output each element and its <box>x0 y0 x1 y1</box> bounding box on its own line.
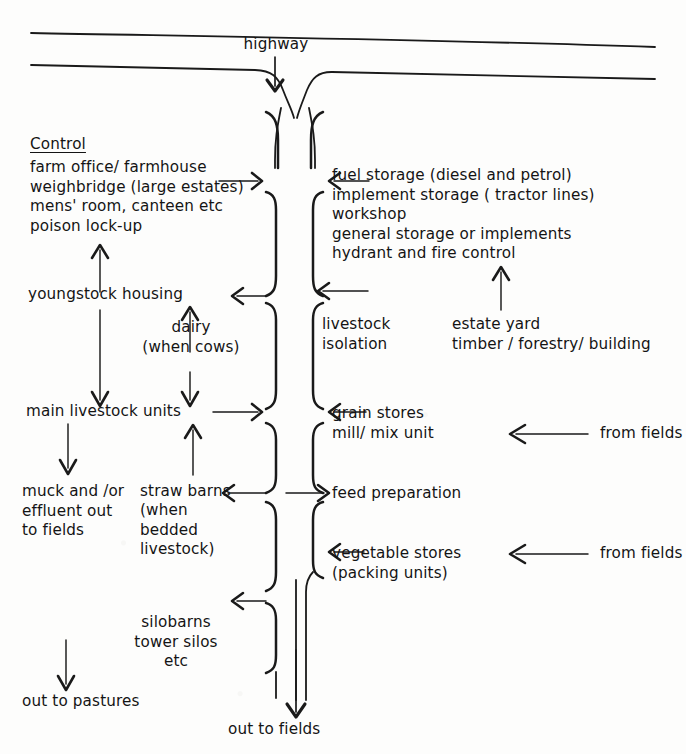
straw-barns-label: straw barns <box>140 482 231 502</box>
highway-entry-arrow <box>267 57 283 91</box>
link-storage-to-youngstock <box>318 283 368 299</box>
spine-right-lower-road <box>296 572 313 700</box>
from-fields-lower-label: from fields <box>600 544 683 564</box>
arrow-spine-to-feed-preparation <box>286 485 329 501</box>
diagram-linework: .ln { fill:none; stroke:#1a1a1a; stroke-… <box>0 0 686 754</box>
arrow-youngstock-to-main-livestock <box>92 310 108 406</box>
feed-preparation-label: feed preparation <box>332 484 461 504</box>
silos-label: silobarns tower silos etc <box>116 613 236 672</box>
arrow-out-to-pastures <box>58 640 74 690</box>
storage-items-list: fuel storage (diesel and petrol) impleme… <box>332 166 595 264</box>
highway-road-lines <box>31 33 655 118</box>
highway-label: highway <box>216 35 336 55</box>
control-items-list: farm office/ farmhouse weighbridge (larg… <box>30 158 244 236</box>
muck-effluent-label: muck and /or effluent out to fields <box>22 482 124 541</box>
spine-right-road <box>309 108 323 168</box>
vegetable-stores-label: vegetable stores (packing units) <box>332 544 461 583</box>
arrow-spine-to-youngstock <box>232 288 266 304</box>
arrow-dairy-down <box>182 372 198 406</box>
arrow-silos-to-spine <box>232 593 266 609</box>
estate-yard-label: estate yard timber / forestry/ building <box>452 315 651 354</box>
diagram-canvas: .ln { fill:none; stroke:#1a1a1a; stroke-… <box>0 0 686 754</box>
arrow-main-livestock-to-spine <box>213 404 262 420</box>
out-to-pastures-label: out to pastures <box>22 692 140 712</box>
straw-barns-note: (when bedded livestock) <box>140 501 215 560</box>
arrow-from-fields-upper <box>510 425 588 443</box>
arrow-from-fields-lower <box>510 545 588 563</box>
livestock-isolation-label: livestock isolation <box>322 315 390 354</box>
control-heading: Control <box>30 135 86 155</box>
arrow-main-livestock-to-muck <box>60 424 76 474</box>
from-fields-upper-label: from fields <box>600 424 683 444</box>
dairy-label: dairy (when cows) <box>130 318 252 357</box>
arrow-estate-yard-up <box>493 267 509 310</box>
grain-stores-label: grain stores mill/ mix unit <box>332 404 434 443</box>
out-to-fields-label: out to fields <box>228 720 320 740</box>
arrow-straw-barns-up <box>185 425 201 475</box>
spine-left-road <box>266 108 281 168</box>
spine-right-bracket-segments <box>313 192 323 578</box>
spine-left-bracket-segments <box>266 192 276 673</box>
out-to-fields-arrow <box>287 650 305 717</box>
youngstock-housing-label: youngstock housing <box>28 285 183 305</box>
main-livestock-units-label: main livestock units <box>26 402 181 422</box>
